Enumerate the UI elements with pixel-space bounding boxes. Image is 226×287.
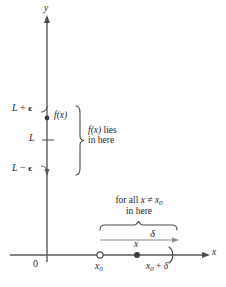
x-axis-arrowhead (202, 252, 210, 258)
tick-L-minus-epsilon-arrowhead (45, 169, 50, 176)
origin-label: 0 (33, 259, 38, 270)
vertical-brace (76, 106, 84, 175)
x-axis-label: x (212, 248, 216, 258)
delta-arrow-head (172, 238, 179, 243)
fx-point-marker (45, 116, 50, 121)
horizontal-brace-note-prefix: for all (115, 195, 140, 205)
y-axis-label: y (44, 4, 48, 14)
x0-point-label-subscript: 0 (99, 265, 103, 273)
y-tick-label-L-minus-epsilon: L − ϵ (12, 163, 32, 174)
y-tick-L-plus-epsilon-symbol: ϵ (28, 103, 32, 113)
horizontal-brace (100, 222, 177, 231)
y-tick-L-minus-epsilon-symbol: ϵ (28, 163, 32, 173)
vertical-brace-note: f(x) lies in here (88, 126, 117, 146)
horizontal-brace-note-line2: in here (100, 207, 178, 217)
horizontal-brace-note: for all x ≠ x0 in here (100, 196, 178, 217)
x-point-label-main: x (134, 239, 138, 249)
y-tick-label-L-plus-epsilon: L + ϵ (12, 103, 32, 114)
x-point-label: x (134, 240, 138, 250)
x0-plus-delta-label-operator: + (154, 261, 164, 271)
horizontal-brace-note-relation: ≠ (145, 195, 155, 205)
vertical-brace-note-tail: lies (101, 125, 117, 135)
fx-point-label: f(x) (54, 111, 67, 121)
tick-L-plus-epsilon (41, 106, 47, 112)
x0-plus-delta-label-symbol: δ (164, 261, 168, 271)
x0-plus-delta-point-label: x0 + δ (146, 262, 168, 273)
y-tick-label-L: L (29, 133, 35, 144)
y-axis-arrowhead (44, 15, 50, 23)
horizontal-brace-note-var2-subscript: 0 (159, 199, 163, 207)
vertical-brace-note-arg: (x) (91, 125, 102, 135)
limit-definition-figure: y x 0 L + ϵ L L − ϵ f(x) f(x) lies in he… (0, 0, 226, 287)
fx-point-label-arg: (x) (57, 110, 68, 120)
vertical-brace-note-line2: in here (88, 136, 117, 146)
x0-point-label: x0 (95, 262, 103, 273)
x0-open-circle-marker (97, 252, 103, 258)
delta-label: δ (150, 228, 155, 240)
x-filled-dot-marker (134, 252, 140, 258)
